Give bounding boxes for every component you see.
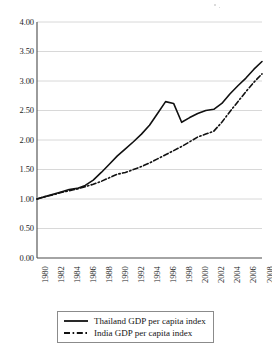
chart-figure: 4.003.503.002.502.001.501.000.500.00 198… [0, 0, 272, 358]
x-tick-label: 2004 [233, 266, 242, 283]
x-axis-tick-labels: 1980198219841986198819901992199419961998… [0, 0, 272, 358]
x-tick-label: 1984 [73, 266, 82, 283]
x-tick-label: 1988 [105, 266, 114, 283]
x-tick-label: 2002 [217, 266, 226, 283]
x-tick-label: 1994 [153, 266, 162, 283]
legend-label-thailand: Thailand GDP per capita index [94, 316, 206, 326]
legend-swatch-dashdot-icon [63, 328, 89, 338]
legend-swatch-solid-icon [63, 316, 89, 326]
x-tick-label: 1980 [41, 266, 50, 283]
x-tick-label: 1990 [121, 266, 130, 283]
legend-item-thailand: Thailand GDP per capita index [63, 315, 206, 327]
x-tick-label: 2006 [249, 266, 258, 283]
x-tick-label: 1998 [185, 266, 194, 283]
x-tick-label: 1986 [89, 266, 98, 283]
x-tick-label: 2008 [266, 266, 273, 283]
x-tick-label: 1996 [169, 266, 178, 283]
legend-label-india: India GDP per capita index [94, 328, 192, 338]
x-tick-label: 2000 [201, 266, 210, 283]
legend-item-india: India GDP per capita index [63, 327, 206, 339]
chart-legend: Thailand GDP per capita index India GDP … [57, 311, 214, 343]
x-tick-label: 1982 [57, 266, 66, 283]
x-tick-label: 1992 [137, 266, 146, 283]
